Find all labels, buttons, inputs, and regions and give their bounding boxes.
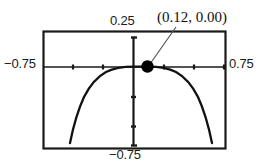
graph-figure: 0.25 −0.75 0.75 −0.75 (0.12, 0.00) [0,0,259,168]
y-min-label: −0.75 [109,148,141,161]
data-point-marker [141,60,153,72]
x-min-label: −0.75 [4,57,36,70]
point-coordinate-label: (0.12, 0.00) [157,10,227,25]
x-max-label: 0.75 [229,57,254,70]
y-max-label: 0.25 [110,14,135,27]
